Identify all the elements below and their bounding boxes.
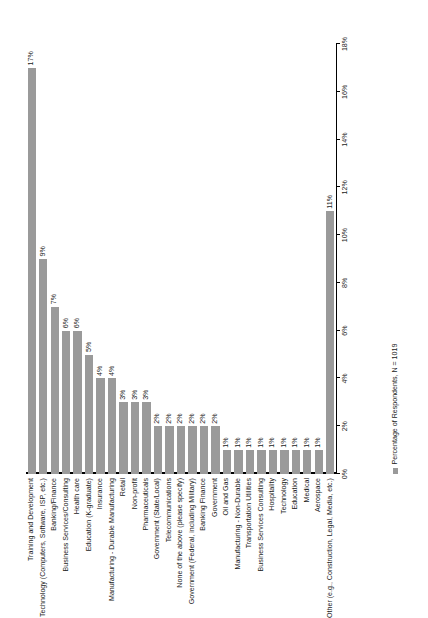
bar-row: Aerospace1% bbox=[315, 44, 323, 474]
bar bbox=[62, 331, 70, 474]
category-label: Retail bbox=[120, 478, 127, 496]
bar-value-label: 1% bbox=[246, 437, 253, 447]
category-label: Training and Development bbox=[28, 478, 35, 561]
bar-value-label: 17% bbox=[28, 51, 35, 65]
bar bbox=[303, 450, 311, 474]
bar-row: None of the above (please specify)2% bbox=[177, 44, 185, 474]
category-label: Health care bbox=[74, 478, 81, 514]
bar bbox=[177, 426, 185, 474]
bar-row: Health care6% bbox=[73, 44, 81, 474]
bar-row: Technology1% bbox=[280, 44, 288, 474]
bar-value-label: 6% bbox=[63, 318, 70, 328]
bar bbox=[326, 211, 334, 474]
bar-row: Technology (Computers, Software, ISP, et… bbox=[39, 44, 47, 474]
value-tick bbox=[336, 186, 340, 187]
bar bbox=[223, 450, 231, 474]
bar-row: Retail3% bbox=[119, 44, 127, 474]
bar-value-label: 3% bbox=[143, 390, 150, 400]
bar bbox=[315, 450, 323, 474]
bar-row: Manufacturing - Durable Manufacturing4% bbox=[108, 44, 116, 474]
category-label: Government (Federal, including Military) bbox=[189, 478, 196, 604]
bar-value-label: 1% bbox=[223, 437, 230, 447]
bar-row: Telecommunications2% bbox=[165, 44, 173, 474]
bar-row: Banking Finance2% bbox=[200, 44, 208, 474]
value-tick-label: 2% bbox=[342, 421, 349, 431]
bar-row: Business Services/Consulting6% bbox=[62, 44, 70, 474]
bar-value-label: 4% bbox=[97, 366, 104, 376]
bar bbox=[257, 450, 265, 474]
value-tick bbox=[336, 91, 340, 92]
bar-value-label: 2% bbox=[200, 413, 207, 423]
category-label: Insurance bbox=[97, 478, 104, 509]
value-tick-label: 10% bbox=[342, 228, 349, 242]
bar bbox=[51, 307, 59, 474]
legend-swatch-icon bbox=[393, 469, 399, 475]
bar-row: Training and Development17% bbox=[28, 44, 36, 474]
category-label: Banking/Finance bbox=[51, 478, 58, 531]
category-label: Medical bbox=[304, 478, 311, 502]
bar bbox=[234, 450, 242, 474]
bar bbox=[269, 450, 277, 474]
bar-row: Education (K-graduate)5% bbox=[85, 44, 93, 474]
bar-row: Government2% bbox=[211, 44, 219, 474]
category-label: Government (State/Local) bbox=[154, 478, 161, 559]
category-label: Banking Finance bbox=[200, 478, 207, 531]
value-tick bbox=[336, 282, 340, 283]
bar-value-label: 2% bbox=[154, 413, 161, 423]
bar-value-label: 5% bbox=[86, 342, 93, 352]
bar bbox=[39, 259, 47, 474]
category-label: Other (e.g., Construction, Legal, Media,… bbox=[327, 478, 334, 618]
bar-row: Hospitality1% bbox=[269, 44, 277, 474]
bar-value-label: 1% bbox=[304, 437, 311, 447]
bar bbox=[28, 68, 36, 474]
bar bbox=[292, 450, 300, 474]
value-tick bbox=[336, 330, 340, 331]
bar bbox=[154, 426, 162, 474]
plot-area: Training and Development17%Technology (C… bbox=[26, 44, 336, 474]
bar-row: Non-profit3% bbox=[131, 44, 139, 474]
bar-value-label: 1% bbox=[281, 437, 288, 447]
category-label: Technology bbox=[281, 478, 288, 514]
value-tick bbox=[336, 377, 340, 378]
bar bbox=[280, 450, 288, 474]
bar bbox=[73, 331, 81, 474]
category-label: Government bbox=[212, 478, 219, 517]
category-label: Business Services/Consulting bbox=[63, 478, 70, 571]
bar-row: Medical1% bbox=[303, 44, 311, 474]
bar-value-label: 11% bbox=[327, 195, 334, 209]
bar bbox=[131, 402, 139, 474]
value-tick-label: 4% bbox=[342, 373, 349, 383]
value-tick-label: 12% bbox=[342, 180, 349, 194]
bar bbox=[246, 450, 254, 474]
value-tick bbox=[336, 425, 340, 426]
bar bbox=[188, 426, 196, 474]
bar bbox=[108, 378, 116, 474]
bar-row: Pharmaceuticals3% bbox=[142, 44, 150, 474]
bar-value-label: 3% bbox=[132, 390, 139, 400]
category-label: Manufacturing - Non-Durable bbox=[235, 478, 242, 569]
value-tick-label: 6% bbox=[342, 326, 349, 336]
value-tick bbox=[336, 43, 340, 44]
bar-row: Government (Federal, including Military)… bbox=[188, 44, 196, 474]
category-label: Transportation Utilities bbox=[246, 478, 253, 548]
legend-label: Percentage of Respondents, N = 1019 bbox=[392, 344, 399, 465]
value-tick-label: 14% bbox=[342, 132, 349, 146]
category-label: Telecommunications bbox=[166, 478, 173, 542]
category-label: Aerospace bbox=[315, 478, 322, 512]
bar bbox=[85, 355, 93, 474]
category-label: Education (K-graduate) bbox=[86, 478, 93, 551]
bar-value-label: 7% bbox=[51, 294, 58, 304]
bar-value-label: 2% bbox=[166, 413, 173, 423]
bar-value-label: 1% bbox=[258, 437, 265, 447]
category-label: Hospitality bbox=[269, 478, 276, 511]
category-label: Pharmaceuticals bbox=[143, 478, 150, 530]
bar-row: Education1% bbox=[292, 44, 300, 474]
chart-legend: Percentage of Respondents, N = 1019 bbox=[392, 344, 399, 474]
bar-value-label: 4% bbox=[109, 366, 116, 376]
category-label: Technology (Computers, Software, ISP, et… bbox=[40, 478, 47, 617]
bar bbox=[142, 402, 150, 474]
category-label: Manufacturing - Durable Manufacturing bbox=[109, 478, 116, 601]
bar-row: Business Services Consulting1% bbox=[257, 44, 265, 474]
value-tick bbox=[336, 139, 340, 140]
